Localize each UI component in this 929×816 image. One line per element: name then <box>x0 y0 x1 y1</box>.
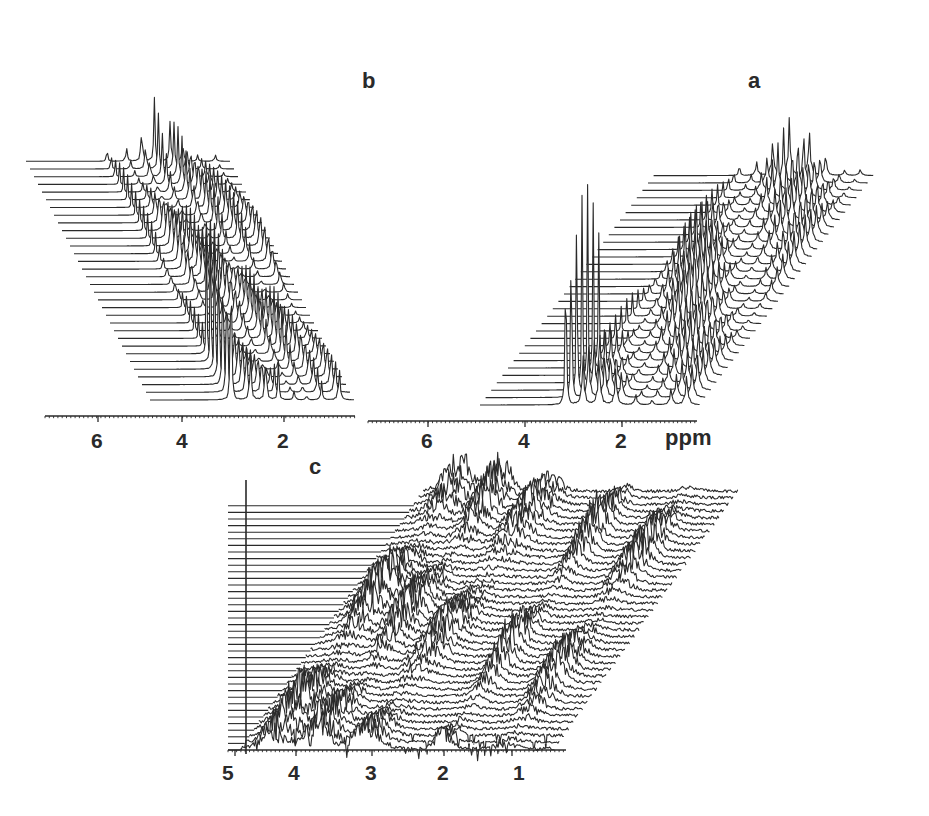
x-axis-b <box>45 416 355 422</box>
panel-label-b: b <box>362 70 375 92</box>
tick-label-a-2: 2 <box>615 430 627 451</box>
tick-label-b-2: 2 <box>277 430 289 451</box>
tick-label-b-6: 6 <box>91 430 103 451</box>
stack-plot-a <box>368 118 874 428</box>
x-axis-c <box>228 750 566 756</box>
tick-label-b-4: 4 <box>176 430 188 451</box>
tick-label-a-4: 4 <box>518 430 530 451</box>
stack-plot-b <box>26 97 355 422</box>
tick-label-c-5: 5 <box>222 762 234 783</box>
tick-label-a-6: 6 <box>421 430 433 451</box>
tick-label-c-2: 2 <box>437 762 449 783</box>
tick-label-c-4: 4 <box>288 762 300 783</box>
axis-unit-ppm: ppm <box>665 427 711 449</box>
stack-plot-c <box>228 452 738 761</box>
nmr-stack-figure <box>0 0 929 816</box>
panel-label-c: c <box>309 456 321 478</box>
x-axis-a <box>368 421 697 427</box>
tick-label-c-3: 3 <box>365 762 377 783</box>
panel-label-a: a <box>748 70 760 92</box>
tick-label-c-1: 1 <box>513 762 525 783</box>
